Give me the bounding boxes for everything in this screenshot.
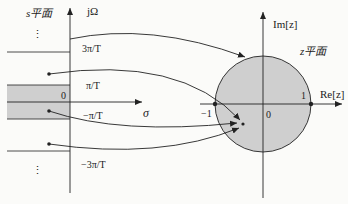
- z-imag-axis-label: Im[z]: [273, 18, 297, 30]
- z-point-target: [241, 122, 244, 125]
- z-unit-label: 1: [301, 90, 306, 101]
- s-to-z-mapping-diagram: s平面 jΩ σ 0 3π/T π/T −π/T −3π/T ⋮ ⋮ Im[z]…: [0, 0, 348, 204]
- ellipsis-bottom: ⋮: [32, 164, 43, 176]
- label-pi-over-t: π/T: [86, 80, 100, 91]
- label-neg-three-pi-over-t: −3π/T: [81, 159, 106, 170]
- z-point-one: [309, 102, 313, 106]
- s-origin-label: 0: [61, 90, 66, 101]
- s-imag-axis-label: jΩ: [86, 5, 98, 17]
- z-real-axis-label: Re[z]: [320, 88, 344, 100]
- label-neg-pi-over-t: −π/T: [83, 110, 103, 121]
- mapping-arrow-neg: [49, 128, 239, 149]
- z-origin-label: 0: [266, 109, 271, 120]
- s-plane-title: s平面: [26, 7, 54, 19]
- z-neg-unit-label: −1: [201, 108, 212, 119]
- z-plane-title: z平面: [299, 45, 328, 57]
- label-three-pi-over-t: 3π/T: [82, 43, 101, 54]
- ellipsis-top: ⋮: [32, 28, 43, 40]
- s-real-axis-label: σ: [143, 106, 150, 120]
- z-point-neg-one: [213, 102, 217, 106]
